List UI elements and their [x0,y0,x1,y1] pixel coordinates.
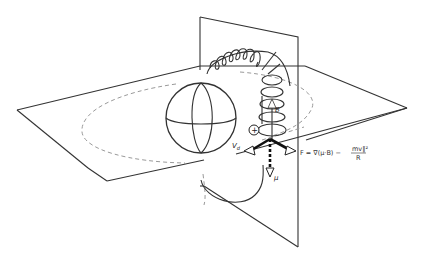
equatorial-plane-front-edge [107,66,407,181]
drift-arrow-icon [244,146,255,155]
force-equation-denominator: R [356,154,361,162]
planet-sphere [166,83,236,153]
magnetic-field-vector: B [268,99,280,140]
force-vector-triad [244,139,296,177]
charge-label: + [251,126,258,135]
force-equation-numerator: mv∥² [352,145,368,153]
field-label: B [275,106,280,114]
charge-symbol: + [249,125,259,135]
diagram-canvas: B + Vd μ F = ∇(μ·B) − mv∥² R [0,0,422,260]
magnetic-moment-label: μ [273,174,279,182]
force-equation-prefix: F = ∇(μ·B) − [300,149,341,157]
drift-velocity-label: Vd [232,142,241,151]
force-equation: F = ∇(μ·B) − mv∥² R [300,145,368,162]
force-arrow-icon [285,146,296,155]
moment-arrow-icon [266,168,274,177]
